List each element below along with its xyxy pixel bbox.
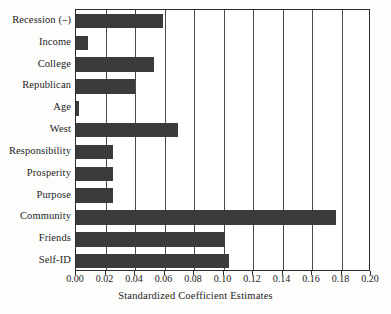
y-axis-label: College	[0, 58, 71, 69]
x-axis-tick-mark	[164, 271, 165, 275]
x-axis-title: Standardized Coefficient Estimates	[0, 290, 391, 301]
x-axis-tick-mark	[311, 271, 312, 275]
bar	[76, 14, 163, 29]
x-axis-tick-mark	[341, 271, 342, 275]
bar	[76, 145, 113, 160]
bar-row	[76, 57, 369, 72]
y-axis-label: Responsibility	[0, 145, 71, 156]
bar	[76, 79, 135, 94]
bar-row	[76, 145, 369, 160]
bar	[76, 167, 113, 182]
y-axis-label: Community	[0, 210, 71, 221]
x-axis-tick-mark	[370, 271, 371, 275]
bar-row	[76, 79, 369, 94]
bar-chart-figure: Recession (–)IncomeCollegeRepublicanAgeW…	[0, 0, 391, 314]
bar	[76, 254, 229, 269]
y-axis-label: Republican	[0, 79, 71, 90]
x-axis-tick-mark	[134, 271, 135, 275]
x-axis-tick-mark	[223, 271, 224, 275]
bars-layer	[76, 10, 369, 270]
bar-row	[76, 36, 369, 51]
y-axis-label: Self-ID	[0, 254, 71, 265]
bar	[76, 123, 178, 138]
bar-row	[76, 167, 369, 182]
bar	[76, 232, 225, 247]
bar-row	[76, 254, 369, 269]
x-axis-tick-mark	[252, 271, 253, 275]
bar-row	[76, 101, 369, 116]
bar	[76, 188, 113, 203]
bar	[76, 210, 336, 225]
x-axis-tick-mark	[193, 271, 194, 275]
y-axis-label: Income	[0, 36, 71, 47]
x-axis-tick-mark	[105, 271, 106, 275]
bar	[76, 57, 154, 72]
plot-area	[75, 9, 370, 271]
bar	[76, 101, 79, 116]
x-axis-tick-labels: 0.000.020.040.060.080.100.120.140.160.18…	[0, 273, 391, 289]
bar-row	[76, 14, 369, 29]
y-axis-label: Prosperity	[0, 167, 71, 178]
y-axis-label: West	[0, 123, 71, 134]
x-axis-tick-mark	[282, 271, 283, 275]
y-axis-label: Age	[0, 101, 71, 112]
bar-row	[76, 123, 369, 138]
y-axis-label: Purpose	[0, 189, 71, 200]
bar-row	[76, 188, 369, 203]
y-axis-label: Friends	[0, 232, 71, 243]
y-axis-label: Recession (–)	[0, 14, 71, 25]
x-axis-tick-mark	[75, 271, 76, 275]
bar	[76, 36, 88, 51]
bar-row	[76, 232, 369, 247]
y-axis-labels: Recession (–)IncomeCollegeRepublicanAgeW…	[0, 9, 71, 271]
bar-row	[76, 210, 369, 225]
